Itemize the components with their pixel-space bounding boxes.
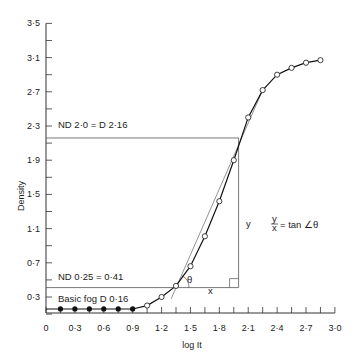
x-axis-title: log It [182, 340, 202, 350]
y-tick-label: 0·3 [27, 292, 40, 302]
nd-2-0-label: ND 2·0 = D 2·16 [58, 119, 127, 130]
y-tick-label: 1·9 [27, 155, 40, 165]
y-tick-label: 2·7 [27, 87, 40, 97]
nd-0-25-label: ND 0·25 = 0·41 [58, 271, 123, 282]
x-tick-label: 1·2 [155, 323, 168, 333]
y-tick-label: 1·1 [27, 224, 40, 234]
x-tick-label: 0·3 [68, 323, 81, 333]
tan-text: = tan ∠θ [280, 219, 318, 230]
fraction-denominator: x [272, 222, 277, 233]
x-tick-label: 1·5 [184, 323, 197, 333]
open-point [275, 72, 280, 77]
tangent-line [171, 90, 262, 299]
right-angle-marker [230, 279, 239, 288]
open-point [173, 283, 178, 288]
open-point [289, 65, 294, 70]
open-point [231, 158, 236, 163]
y-tick-label: 2·3 [27, 121, 40, 131]
open-point [159, 294, 164, 299]
x-tick-label: 1·8 [213, 323, 226, 333]
open-point [318, 58, 323, 63]
x-tick-label: 2·1 [242, 323, 255, 333]
open-point [246, 115, 251, 120]
y-tick-label: 3·5 [27, 18, 40, 28]
open-point [188, 264, 193, 269]
y-tick-label: 1·5 [27, 189, 40, 199]
theta-label: θ [187, 274, 192, 285]
y-tick-label: 0·7 [27, 258, 40, 268]
open-point [202, 234, 207, 239]
x-tick-label: 2·4 [271, 323, 284, 333]
filled-point [116, 306, 121, 311]
characteristic-curve-chart: 0·30·71·11·51·92·32·73·13·500·30·60·91·2… [0, 0, 359, 359]
filled-point [101, 306, 106, 311]
x-tick-label: 2·7 [300, 323, 313, 333]
y-axis-title: Density [16, 180, 26, 211]
open-point [217, 199, 222, 204]
filled-point [58, 306, 63, 311]
filled-point [130, 306, 135, 311]
open-point [303, 60, 308, 65]
filled-point [72, 306, 77, 311]
x-tick-label: 3·0 [328, 323, 341, 333]
filled-point [87, 306, 92, 311]
x-tick-label: 0·6 [97, 323, 110, 333]
x-tick-label: 0 [43, 323, 48, 333]
y-leg-label: y [246, 218, 251, 229]
open-point [260, 87, 265, 92]
tan-formula: y x = tan ∠θ [271, 213, 318, 233]
y-tick-label: 3·1 [27, 53, 40, 63]
x-leg-label: x [208, 285, 213, 296]
basic-fog-label: Basic fog D 0·16 [58, 293, 128, 304]
x-tick-label: 0·9 [126, 323, 139, 333]
axes: 0·30·71·11·51·92·32·73·13·500·30·60·91·2… [27, 18, 341, 333]
open-point [145, 303, 150, 308]
